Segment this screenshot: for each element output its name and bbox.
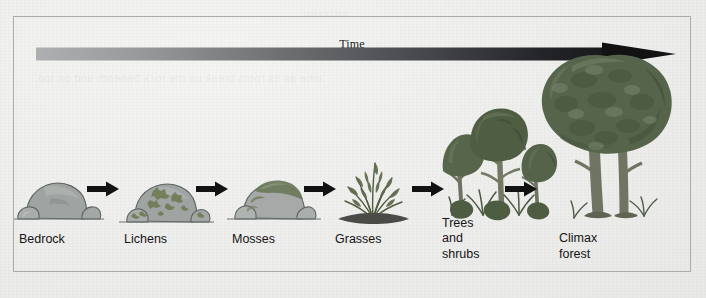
base-grass — [571, 197, 657, 218]
climax-canopy — [542, 55, 672, 154]
stage-label-mosses: Mosses — [232, 232, 275, 247]
stage-label-bedrock: Bedrock — [19, 232, 65, 247]
right-arrow-icon — [87, 181, 119, 197]
stage-label-grasses: Grasses — [335, 232, 382, 247]
mature-climax-tree-icon — [532, 42, 682, 227]
moss-covered-rock-icon — [227, 169, 321, 225]
stage-label-trees-and-shrubs: Trees and shrubs — [442, 216, 480, 263]
lichen-covered-rock-icon — [119, 167, 214, 229]
soil-base — [338, 213, 409, 224]
right-arrow-icon — [196, 181, 228, 197]
stage-label-climax-forest: Climax forest — [559, 231, 597, 262]
stage-label-lichens: Lichens — [124, 232, 167, 247]
bare-boulder-icon — [14, 169, 104, 225]
figure-frame: Time Be — [13, 16, 691, 272]
root-flare — [584, 212, 638, 219]
grass-clump-icon — [332, 149, 414, 227]
